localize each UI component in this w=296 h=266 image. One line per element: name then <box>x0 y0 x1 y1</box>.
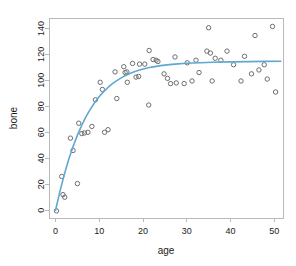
data-point <box>137 62 141 66</box>
data-point <box>75 181 79 185</box>
data-point <box>90 124 94 128</box>
data-point <box>130 61 134 65</box>
data-point <box>147 48 151 52</box>
data-point <box>239 79 243 83</box>
y-tick-label: 80 <box>36 101 46 111</box>
data-point <box>165 76 169 80</box>
data-point <box>265 77 269 81</box>
data-point <box>115 96 119 100</box>
chart-canvas: 020406080100120140 01020304050 age bone <box>0 0 296 266</box>
data-point <box>231 63 235 67</box>
data-point <box>197 70 201 74</box>
y-tick-label: 0 <box>36 208 46 213</box>
data-point <box>143 62 147 66</box>
data-point <box>273 90 277 94</box>
y-tick-label: 140 <box>36 21 46 36</box>
data-points <box>54 24 278 213</box>
data-point <box>136 74 140 78</box>
data-point <box>270 24 274 28</box>
x-tick-label: 50 <box>269 226 279 236</box>
data-point <box>106 127 110 131</box>
x-tick-label: 0 <box>53 226 58 236</box>
x-tick-label: 20 <box>138 226 148 236</box>
data-point <box>173 55 177 59</box>
data-point <box>182 81 186 85</box>
x-axis-ticks: 01020304050 <box>53 218 279 236</box>
data-point <box>225 49 229 53</box>
data-point <box>242 54 246 58</box>
y-tick-label: 100 <box>36 73 46 88</box>
data-point <box>262 63 266 67</box>
data-point <box>68 136 72 140</box>
bone-vs-age-scatter-plot: 020406080100120140 01020304050 age bone <box>0 0 296 266</box>
data-point <box>77 121 81 125</box>
x-tick-label: 30 <box>182 226 192 236</box>
x-tick-label: 10 <box>94 226 104 236</box>
x-tick-label: 40 <box>226 226 236 236</box>
data-point <box>208 51 212 55</box>
data-point <box>122 65 126 69</box>
y-tick-label: 60 <box>36 127 46 137</box>
y-axis-title: bone <box>8 106 19 129</box>
plot-frame <box>49 18 283 218</box>
data-point <box>98 80 102 84</box>
data-point <box>125 80 129 84</box>
data-point <box>174 81 178 85</box>
y-tick-label: 40 <box>36 153 46 163</box>
data-point <box>210 79 214 83</box>
data-point <box>147 103 151 107</box>
data-point <box>162 72 166 76</box>
x-axis-title: age <box>158 245 175 256</box>
y-tick-label: 20 <box>36 179 46 189</box>
data-point <box>194 58 198 62</box>
data-point <box>190 79 194 83</box>
y-tick-label: 120 <box>36 47 46 62</box>
y-axis-ticks: 020406080100120140 <box>36 21 49 213</box>
data-point <box>257 68 261 72</box>
data-point <box>249 72 253 76</box>
data-point <box>253 33 257 37</box>
data-point <box>213 56 217 60</box>
data-point <box>113 70 117 74</box>
data-point <box>206 26 210 30</box>
data-point <box>168 81 172 85</box>
